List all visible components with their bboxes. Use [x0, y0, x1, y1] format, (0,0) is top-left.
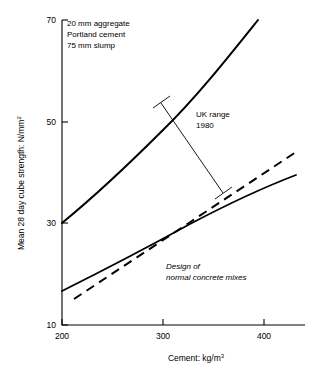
annotation-conditions: 20 mm aggregate Portland cement 75 mm sl… [67, 19, 130, 50]
x-axis-title-exponent: 3 [221, 353, 225, 359]
conditions-line-2: Portland cement [67, 30, 126, 39]
y-tick-marks [62, 20, 68, 325]
design-label-line-1: Design of [166, 262, 201, 271]
conditions-line-1: 20 mm aggregate [67, 19, 130, 28]
x-tick-marks [62, 319, 264, 325]
y-tick-label-70: 70 [47, 15, 57, 25]
svg-text:Mean 28 day cube strength: N/m: Mean 28 day cube strength: N/mm2 [16, 116, 27, 250]
x-axis-title-main: Cement: kg/m [168, 353, 221, 363]
y-tick-label-10: 10 [47, 320, 57, 330]
series-uk-range-upper [62, 20, 258, 223]
conditions-line-3: 75 mm slump [67, 41, 116, 50]
y-tick-label-50: 50 [47, 117, 57, 127]
design-label-line-2: normal concrete mixes [166, 273, 246, 282]
x-tick-label-300: 300 [156, 331, 170, 341]
y-axis-title: Mean 28 day cube strength: N/mm2 [16, 116, 27, 250]
chart-svg: 70 50 30 10 200 300 400 Mean 28 day cube… [0, 0, 319, 374]
x-axis-title: Cement: kg/m3 [168, 353, 225, 364]
y-axis-title-main: Mean 28 day cube strength: N/mm [16, 120, 26, 250]
y-axis-title-exponent: 2 [16, 116, 22, 120]
uk-range-line-1: UK range [196, 110, 230, 119]
data-curves [62, 20, 296, 299]
y-tick-label-30: 30 [47, 218, 57, 228]
chart-figure: 70 50 30 10 200 300 400 Mean 28 day cube… [0, 0, 319, 374]
annotation-uk-range: UK range 1980 [196, 110, 230, 130]
x-tick-label-400: 400 [257, 331, 271, 341]
x-tick-label-200: 200 [55, 331, 69, 341]
uk-range-line-2: 1980 [196, 121, 214, 130]
annotation-design-mixes: Design of normal concrete mixes [166, 262, 246, 282]
